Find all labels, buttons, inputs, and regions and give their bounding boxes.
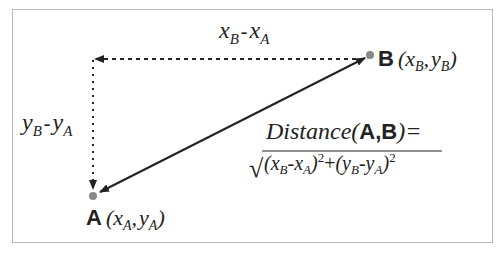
point-B-label: B(xB,yB) [378,46,457,74]
dx-label: xB-xA [218,17,270,47]
formula-rhs: (xB-xA)2+(yB-yA)2 [264,150,396,177]
sqrt-symbol: √ [249,154,264,183]
point-B-dot [366,51,374,59]
point-A-label: A(xA,yA) [86,205,165,233]
formula-lhs: Distance(A,B)= [265,118,421,144]
dy-label: yB-yA [20,109,73,139]
distance-diagram: xB-xA yB-yA B(xB,yB) A(xA,yA) Distance(A… [0,0,503,253]
point-A-dot [89,192,97,200]
